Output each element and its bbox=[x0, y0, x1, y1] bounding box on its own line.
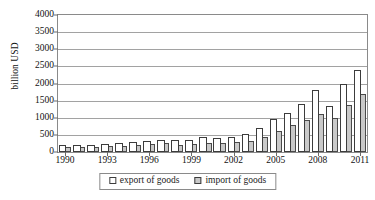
bar-export[interactable] bbox=[115, 143, 122, 152]
x-axis-tick-label: 2008 bbox=[308, 156, 327, 166]
y-axis-tick-label: 1500 bbox=[2, 96, 54, 106]
bar-group bbox=[312, 15, 324, 152]
bar-export[interactable] bbox=[256, 128, 263, 152]
y-axis-tick-label: 3000 bbox=[2, 45, 54, 55]
legend-label-import: import of goods bbox=[205, 176, 266, 186]
bar-export[interactable] bbox=[284, 113, 291, 152]
legend-item-export[interactable]: export of goods bbox=[109, 176, 180, 186]
bar-group bbox=[171, 15, 183, 152]
bar-export[interactable] bbox=[59, 145, 66, 152]
y-axis-tick-label: 2000 bbox=[2, 79, 54, 89]
chart-legend: export of goods import of goods bbox=[99, 173, 276, 190]
bar-group bbox=[185, 15, 197, 152]
y-axis-tick-label: 1000 bbox=[2, 113, 54, 123]
bar-series-container bbox=[58, 15, 367, 152]
bar-export[interactable] bbox=[228, 137, 235, 152]
bar-export[interactable] bbox=[340, 84, 347, 153]
bar-group bbox=[270, 15, 282, 152]
bar-group bbox=[298, 15, 310, 152]
plot-area: 05001000150020002500300035004000 1990199… bbox=[57, 14, 368, 153]
bar-export[interactable] bbox=[213, 138, 220, 152]
bar-export[interactable] bbox=[298, 104, 305, 152]
bar-group bbox=[340, 15, 352, 152]
y-axis-tick-label: 4000 bbox=[2, 10, 54, 20]
x-axis-tick-label: 1990 bbox=[56, 156, 75, 166]
bar-group bbox=[213, 15, 225, 152]
bar-export[interactable] bbox=[312, 90, 319, 152]
bar-export[interactable] bbox=[101, 144, 108, 152]
bar-export[interactable] bbox=[171, 140, 178, 152]
bar-group bbox=[284, 15, 296, 152]
bar-export[interactable] bbox=[242, 134, 249, 152]
y-axis-tick-label: 2500 bbox=[2, 62, 54, 72]
bar-export[interactable] bbox=[185, 140, 192, 153]
x-axis-tick-label: 1996 bbox=[140, 156, 159, 166]
y-axis-tick-label: 500 bbox=[2, 130, 54, 140]
y-axis-tick-label: 0 bbox=[2, 147, 54, 157]
export-swatch-icon bbox=[109, 177, 116, 184]
bar-export[interactable] bbox=[354, 70, 361, 152]
legend-label-export: export of goods bbox=[120, 176, 180, 186]
x-axis-tick-label: 2005 bbox=[266, 156, 285, 166]
bar-export[interactable] bbox=[157, 140, 164, 153]
bar-export[interactable] bbox=[87, 145, 94, 152]
bar-group bbox=[256, 15, 268, 152]
bar-group bbox=[326, 15, 338, 152]
bar-group bbox=[199, 15, 211, 152]
bar-export[interactable] bbox=[73, 145, 80, 152]
bar-export[interactable] bbox=[270, 119, 277, 152]
bar-group bbox=[354, 15, 366, 152]
bar-group bbox=[129, 15, 141, 152]
x-axis-tick-label: 2002 bbox=[224, 156, 243, 166]
bar-export[interactable] bbox=[143, 141, 150, 152]
x-axis-tick-label: 2011 bbox=[351, 156, 370, 166]
bar-group bbox=[59, 15, 71, 152]
x-axis-tick-label: 1993 bbox=[98, 156, 117, 166]
x-axis-tick-label: 1999 bbox=[182, 156, 201, 166]
bar-group bbox=[101, 15, 113, 152]
bar-export[interactable] bbox=[129, 142, 136, 152]
bar-group bbox=[143, 15, 155, 152]
bar-group bbox=[115, 15, 127, 152]
import-swatch-icon bbox=[194, 177, 201, 184]
bar-group bbox=[87, 15, 99, 152]
y-axis-tick-label: 3500 bbox=[2, 27, 54, 37]
bar-group bbox=[73, 15, 85, 152]
bar-group bbox=[157, 15, 169, 152]
legend-item-import[interactable]: import of goods bbox=[194, 176, 266, 186]
bar-chart: billion USD 0500100015002000250030003500… bbox=[0, 0, 375, 200]
bar-export[interactable] bbox=[199, 137, 206, 152]
bar-export[interactable] bbox=[326, 106, 333, 152]
bar-group bbox=[228, 15, 240, 152]
bar-group bbox=[242, 15, 254, 152]
